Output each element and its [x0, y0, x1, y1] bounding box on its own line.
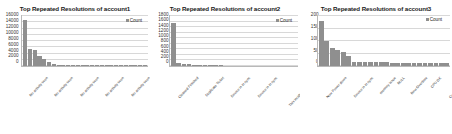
bar	[52, 64, 56, 66]
bar	[417, 63, 422, 66]
bar	[203, 65, 208, 66]
y-tick-label: 8000	[8, 37, 20, 42]
bar	[352, 62, 357, 66]
legend-swatch-icon	[426, 18, 429, 21]
y-tick-label: 16000	[6, 13, 20, 18]
chart-panel-account1: Top Repeated Resolutions of account1 160…	[0, 0, 150, 134]
bar	[197, 65, 202, 66]
bar	[124, 65, 128, 66]
bar	[71, 65, 75, 66]
bar	[363, 62, 368, 66]
x-axis-labels-account2: Cleaned FinishedDuplicate TicketDevice i…	[170, 76, 298, 80]
legend-account2: Count	[276, 18, 292, 23]
x-tick-label: Now Power down	[327, 76, 349, 99]
bar	[256, 66, 261, 67]
bar	[292, 66, 297, 67]
bar	[119, 65, 123, 66]
y-tick-label: 4000	[8, 49, 20, 54]
y-tick-label: 14000	[6, 19, 20, 24]
legend-swatch-icon	[126, 19, 129, 22]
bar	[81, 65, 85, 66]
x-tick-label: No activity seen	[55, 76, 75, 97]
bar	[261, 66, 266, 67]
bar	[23, 20, 27, 66]
bar	[266, 66, 271, 67]
bar-series-account3	[319, 15, 449, 66]
x-tick-label: CPU OK	[431, 76, 443, 89]
bar	[324, 41, 329, 66]
bar	[187, 64, 192, 66]
bar	[406, 63, 411, 66]
bar	[182, 64, 187, 66]
legend-account1: Count	[126, 18, 142, 23]
bar	[335, 50, 340, 66]
chart-panel-account2: Top Repeated Resolutions of account2 180…	[150, 0, 300, 134]
plot-wrap-account1: 1600014000120001000080006000400020000 Co…	[0, 15, 150, 67]
bar	[423, 63, 428, 66]
bar	[439, 63, 444, 66]
bar	[129, 65, 133, 66]
x-tick-label: No activity seen	[106, 76, 126, 97]
bar	[374, 62, 379, 66]
bar	[379, 62, 384, 66]
bar	[105, 65, 109, 66]
bar	[401, 63, 406, 66]
bar	[208, 65, 213, 66]
x-axis-labels-account1: No activity seenNo activity seenNo activ…	[22, 76, 148, 80]
y-tick-label: 6000	[8, 43, 20, 48]
bar	[109, 65, 113, 66]
bar	[95, 65, 99, 66]
bar	[171, 23, 176, 66]
plot-wrap-account2: 180016001400120010008006004002000 Count	[150, 15, 300, 67]
bar	[319, 21, 324, 66]
bar	[33, 50, 37, 66]
bar	[47, 62, 51, 66]
x-tick-label: No activity seen	[132, 76, 152, 97]
bar	[133, 65, 137, 66]
x-tick-label: Device is in sync	[232, 76, 253, 98]
bar	[66, 65, 70, 66]
bar	[100, 65, 104, 66]
bar	[357, 62, 362, 66]
bar	[42, 59, 46, 66]
y-axis-account2: 180016001400120010008006004002000	[150, 15, 170, 67]
bar	[330, 48, 335, 66]
x-tick-label: New Overtime	[412, 76, 430, 95]
bar	[271, 66, 276, 67]
bar	[287, 66, 292, 67]
chart-title-account1: Top Repeated Resolutions of account1	[0, 0, 150, 13]
chart-title-account2: Top Repeated Resolutions of account2	[150, 0, 300, 13]
bar	[412, 63, 417, 66]
bar	[368, 62, 373, 66]
bar	[234, 66, 239, 67]
x-tick-label: No activity seen	[81, 76, 101, 97]
y-tick-label: 0	[16, 60, 20, 65]
bar	[346, 56, 351, 66]
chart-title-account3: Top Repeated Resolutions of account3	[300, 0, 452, 13]
bar	[384, 62, 389, 66]
bar	[229, 66, 234, 67]
plot-wrap-account3: 200150100500 Count	[300, 15, 452, 67]
bar	[138, 65, 142, 66]
bar	[76, 65, 80, 66]
bar	[85, 65, 89, 66]
legend-swatch-icon	[276, 19, 279, 22]
legend-label: Count	[430, 17, 442, 22]
bar	[143, 65, 147, 66]
x-tick-label: Duplicate Ticket	[206, 76, 226, 97]
bar	[277, 66, 282, 67]
bar	[395, 63, 400, 66]
bar	[61, 65, 65, 66]
chart-panel-account3: Top Repeated Resolutions of account3 200…	[300, 0, 452, 134]
y-axis-account1: 1600014000120001000080006000400020000	[0, 15, 20, 67]
bar	[192, 65, 197, 66]
bar	[434, 63, 439, 66]
y-tick-label: 12000	[6, 25, 20, 30]
bar	[428, 63, 433, 66]
y-tick-label: 10000	[6, 31, 20, 36]
bar	[444, 63, 449, 66]
x-tick-label: NULL	[398, 76, 407, 85]
legend-label: Count	[280, 18, 292, 23]
bar	[90, 65, 94, 66]
bar	[240, 66, 245, 67]
